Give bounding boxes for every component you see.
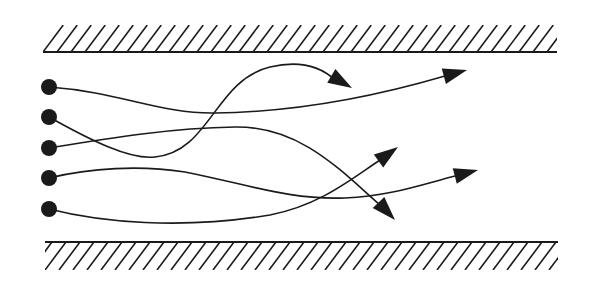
particle-dot-2 <box>41 109 57 125</box>
top-wall-hatching <box>43 25 595 52</box>
top-wall <box>43 25 595 52</box>
bottom-wall-hatching <box>17 242 570 270</box>
bottom-wall <box>17 242 570 270</box>
trajectory-line <box>49 64 335 157</box>
trajectory-5 <box>49 147 398 223</box>
trajectory-line <box>49 76 445 113</box>
arrowhead-icon <box>327 69 352 88</box>
trajectory-lines <box>49 64 478 223</box>
particle-dot-3 <box>41 140 57 156</box>
trajectory-1 <box>49 69 467 113</box>
trajectory-2 <box>49 64 352 157</box>
trajectory-3 <box>49 127 395 220</box>
arrowhead-icon <box>453 168 478 183</box>
particle-dot-1 <box>41 79 57 95</box>
trajectory-line <box>49 168 455 198</box>
trajectory-4 <box>49 168 478 198</box>
particle-dot-4 <box>41 170 57 186</box>
particle-dot-5 <box>41 201 57 217</box>
arrowhead-icon <box>442 69 467 84</box>
arrowhead-icon <box>374 147 398 168</box>
flow-diagram <box>0 0 597 289</box>
diagram-svg <box>0 0 597 289</box>
particles <box>41 79 57 217</box>
